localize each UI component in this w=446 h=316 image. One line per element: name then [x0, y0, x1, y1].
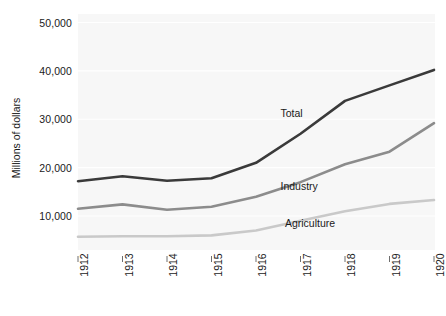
x-tick-label-1914: 1914: [167, 241, 179, 289]
gridlines: [78, 23, 435, 217]
series-label-agriculture: Agriculture: [285, 217, 335, 229]
x-tick-label-1918: 1918: [345, 241, 357, 289]
y-tick-label-40000: 40,000: [0, 65, 72, 77]
series-lines: [78, 70, 434, 237]
x-tick-label-1919: 1919: [390, 241, 402, 289]
y-axis-title: Millions of dollars: [10, 78, 22, 198]
series-line-industry: [78, 123, 434, 210]
x-tick-label-1912: 1912: [78, 241, 90, 289]
series-label-total: Total: [281, 107, 303, 119]
series-line-total: [78, 70, 434, 181]
y-tick-label-10000: 10,000: [0, 210, 72, 222]
series-label-industry: Industry: [281, 180, 318, 192]
x-tick-label-1916: 1916: [256, 241, 268, 289]
x-tick-label-1915: 1915: [212, 241, 224, 289]
y-tick-label-50000: 50,000: [0, 17, 72, 29]
x-tick-label-1913: 1913: [123, 241, 135, 289]
x-tick-label-1917: 1917: [301, 241, 313, 289]
x-tick-label-1920: 1920: [434, 241, 446, 289]
